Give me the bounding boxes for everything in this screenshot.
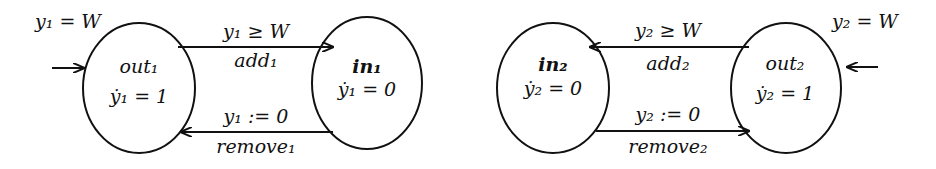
state-in1-flow: ẏ₁ = 0 [337, 78, 396, 100]
state-in1-name: in₁ [352, 55, 381, 77]
state-in2-name: in₂ [538, 53, 567, 75]
initial-condition-1: y₁ = W [34, 10, 102, 32]
state-out1-name: out₁ [120, 55, 159, 77]
transition-remove2-event: remove₂ [628, 135, 707, 157]
transition-remove1-reset: y₁ := 0 [223, 105, 289, 127]
state-out2-name: out₂ [766, 52, 805, 74]
transition-remove2-reset: y₂ := 0 [635, 103, 701, 125]
transition-add1-event: add₁ [234, 49, 277, 71]
automaton-2: in₂ ẏ₂ = 0 out₂ ẏ₂ = 1 y₂ ≥ W add₂ y₂ :=… [497, 10, 899, 157]
automaton-1: y₁ = W out₁ ẏ₁ = 1 in₁ ẏ₁ = 0 y₁ ≥ W add… [34, 10, 422, 157]
state-out1-flow: ẏ₁ = 1 [109, 85, 168, 107]
initial-condition-2: y₂ = W [831, 10, 899, 32]
transition-remove1-event: remove₁ [216, 135, 295, 157]
transition-add2-guard: y₂ ≥ W [634, 19, 702, 41]
state-out2-flow: ẏ₂ = 1 [755, 82, 814, 104]
hybrid-automata-diagram: y₁ = W out₁ ẏ₁ = 1 in₁ ẏ₁ = 0 y₁ ≥ W add… [0, 0, 936, 169]
transition-add1-guard: y₁ ≥ W [222, 20, 290, 42]
transition-add2-event: add₂ [646, 52, 689, 74]
state-in2-flow: ẏ₂ = 0 [523, 77, 582, 99]
